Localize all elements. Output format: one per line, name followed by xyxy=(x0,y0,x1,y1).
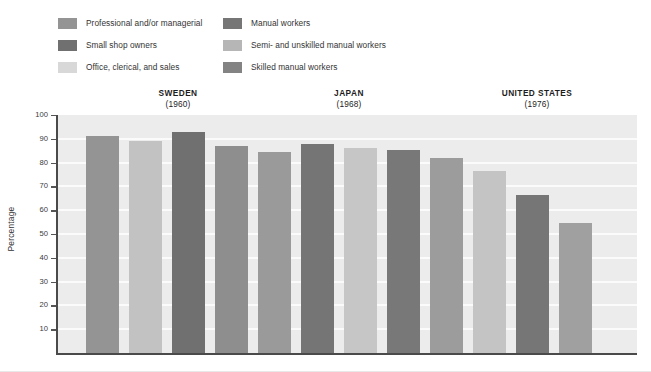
group-year: (1968) xyxy=(289,99,409,110)
legend-swatch-icon xyxy=(58,18,77,29)
legend-item-label: Skilled manual workers xyxy=(251,62,337,73)
legend-item: Office, clerical, and sales xyxy=(58,56,202,78)
bar xyxy=(387,150,420,353)
bar xyxy=(172,132,205,353)
bar xyxy=(129,141,162,353)
y-axis-tick-label: 20 xyxy=(8,301,48,309)
gridline xyxy=(58,138,637,140)
legend-item: Skilled manual workers xyxy=(223,56,386,78)
y-axis-tick-label: 30 xyxy=(8,278,48,286)
bar xyxy=(473,171,506,353)
group-name: SWEDEN xyxy=(118,88,238,99)
legend-item-label: Professional and/or managerial xyxy=(86,18,202,29)
legend-swatch-icon xyxy=(223,62,242,73)
legend-item-label: Manual workers xyxy=(251,18,310,29)
legend-swatch-icon xyxy=(58,40,77,51)
y-axis-tick-label: 70 xyxy=(8,182,48,190)
bar xyxy=(344,148,377,353)
legend-item-label: Small shop owners xyxy=(86,40,157,51)
legend-swatch-icon xyxy=(223,18,242,29)
legend-item: Small shop owners xyxy=(58,34,202,56)
bar xyxy=(258,152,291,353)
y-axis-tick-label: 100 xyxy=(8,111,48,119)
bar xyxy=(301,144,334,353)
legend-item-label: Office, clerical, and sales xyxy=(86,62,179,73)
y-axis-tick-label: 50 xyxy=(8,230,48,238)
y-axis-tick-label: 10 xyxy=(8,325,48,333)
legend-swatch-icon xyxy=(223,40,242,51)
legend-item-label: Semi- and unskilled manual workers xyxy=(251,40,386,51)
plot-wrapper: Percentage 102030405060708090100 xyxy=(0,112,651,360)
bar xyxy=(430,158,463,353)
legend-column-right: Manual workers Semi- and unskilled manua… xyxy=(223,12,386,78)
legend-item: Manual workers xyxy=(223,12,386,34)
y-axis-tick-label: 90 xyxy=(8,135,48,143)
chart-legend: Professional and/or managerial Small sho… xyxy=(58,12,478,78)
y-axis-title: Percentage xyxy=(6,174,16,284)
plot-area xyxy=(58,115,637,353)
legend-item: Semi- and unskilled manual workers xyxy=(223,34,386,56)
group-header-united-states: UNITED STATES (1976) xyxy=(477,88,597,110)
group-year: (1960) xyxy=(118,99,238,110)
bar xyxy=(215,146,248,353)
group-header-japan: JAPAN (1968) xyxy=(289,88,409,110)
group-name: UNITED STATES xyxy=(477,88,597,99)
y-axis-tick-label: 40 xyxy=(8,254,48,262)
x-axis-line xyxy=(56,353,637,355)
y-axis-tick-label: 80 xyxy=(8,159,48,167)
chart-figure: Professional and/or managerial Small sho… xyxy=(0,0,651,372)
group-year: (1976) xyxy=(477,99,597,110)
bar xyxy=(559,223,592,353)
group-name: JAPAN xyxy=(289,88,409,99)
bar xyxy=(86,136,119,353)
y-axis-tick-label: 60 xyxy=(8,206,48,214)
group-header-sweden: SWEDEN (1960) xyxy=(118,88,238,110)
bar xyxy=(516,195,549,353)
legend-item: Professional and/or managerial xyxy=(58,12,202,34)
legend-swatch-icon xyxy=(58,62,77,73)
legend-column-left: Professional and/or managerial Small sho… xyxy=(58,12,202,78)
